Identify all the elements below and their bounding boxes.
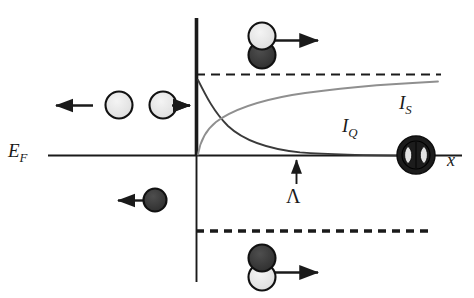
electron-left-open [106, 92, 133, 119]
condensate-glyph-right [420, 147, 427, 164]
lambda-label: Λ [286, 186, 301, 206]
fermi-level-label-sub: F [20, 150, 28, 165]
curve-label-i-q: IQ [342, 116, 358, 140]
diagram-canvas [0, 0, 474, 298]
curve-label-i-s-sub: S [405, 102, 411, 117]
fermi-level-label-base: E [8, 140, 20, 161]
condensate-glyph-left [405, 147, 412, 164]
curve-label-i-s: IS [399, 93, 412, 117]
fermi-level-label: EF [8, 141, 28, 165]
energy-diagram-figure: EF x IS IQ Λ [0, 0, 474, 298]
curve-i-q [198, 80, 414, 156]
cooper-pair-bottom-upper-circle [249, 245, 276, 272]
cooper-pair-top-upper-circle [249, 23, 276, 50]
x-axis-label: x [447, 151, 455, 169]
hole-reflected [144, 189, 167, 212]
curve-label-i-q-sub: Q [348, 125, 357, 140]
